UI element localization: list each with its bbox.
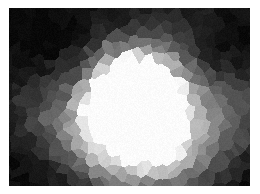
- cellular-noise-heatmap: [9, 8, 250, 186]
- figure-root: [0, 0, 260, 194]
- heatmap-plot-area: [9, 8, 250, 186]
